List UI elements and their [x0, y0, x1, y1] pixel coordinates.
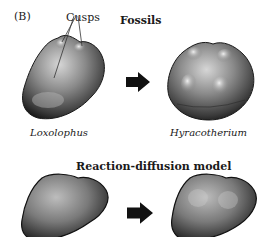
loxolophus-caption: Loxolophus: [30, 127, 88, 138]
cusps-annotation-label: Cusps: [66, 11, 100, 24]
fossils-title: Fossils: [120, 14, 161, 27]
model-tooth-right-image: [168, 172, 264, 237]
right-arrow-icon: [126, 72, 150, 92]
hyracotherium-caption: Hyracotherium: [170, 127, 247, 138]
panel-label: (B): [14, 10, 31, 23]
loxolophus-tooth-image: [18, 30, 118, 125]
right-arrow-icon: [127, 202, 153, 224]
model-tooth-left-image: [18, 172, 114, 237]
hyracotherium-tooth-image: [163, 34, 259, 124]
